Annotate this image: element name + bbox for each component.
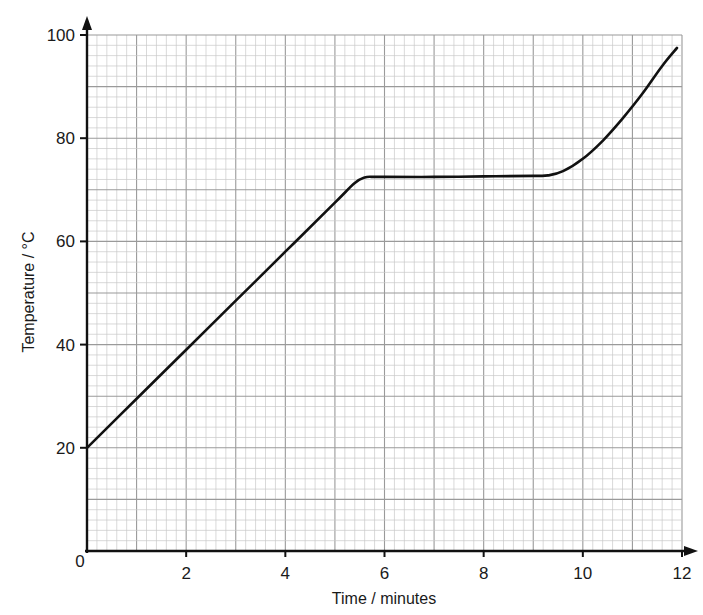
grid-lines [87, 35, 682, 551]
x-axis-title: Time / minutes [332, 590, 436, 607]
x-tick-label: 8 [479, 564, 488, 583]
y-tick-label: 20 [56, 439, 75, 458]
y-tick-label: 80 [56, 129, 75, 148]
x-tick-label: 0 [75, 552, 84, 571]
x-tick-label: 12 [673, 564, 692, 583]
temperature-time-chart: 02468101220406080100 Time / minutes Temp… [0, 0, 703, 615]
x-tick-label: 6 [380, 564, 389, 583]
y-tick-label: 40 [56, 336, 75, 355]
temperature-curve [87, 48, 677, 448]
x-tick-label: 10 [573, 564, 592, 583]
y-axis-title: Temperature / °C [20, 231, 37, 352]
x-axis-arrow-icon [684, 546, 698, 556]
y-axis-arrow-icon [82, 16, 92, 30]
x-tick-label: 4 [281, 564, 290, 583]
x-tick-label: 2 [181, 564, 190, 583]
y-tick-label: 60 [56, 232, 75, 251]
y-tick-label: 100 [47, 26, 75, 45]
